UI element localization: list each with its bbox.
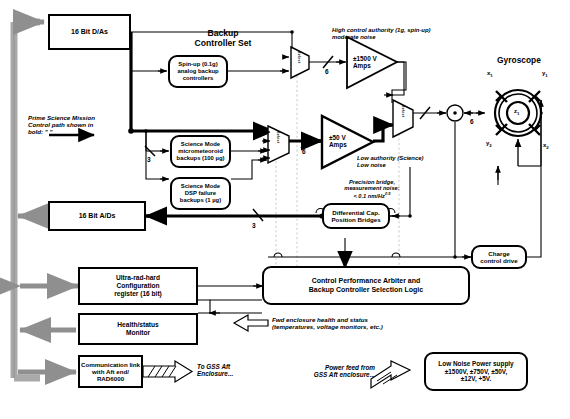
label-lv-amps: ±50 V Amps: [329, 134, 347, 149]
gyro-electrode-y2-label: y2: [486, 140, 492, 148]
gyro-electrode-y1-label: y1: [542, 70, 548, 78]
annotation-power-feed: Power feed from GSS Aft enclosure...: [293, 364, 375, 379]
bus-count-gyro: 6: [470, 118, 474, 125]
mux-mid-select-label: Select: [276, 131, 280, 143]
box-differential-cap-position-bridges[interactable]: Differential Cap. Position Bridges: [322, 203, 390, 229]
box-dsp-failure-backups[interactable]: Science Mode DSP failure backups (1 µg): [170, 177, 231, 210]
hollow-arrow-fwd-enclosure: [234, 315, 268, 331]
gyro-rotor-z1-label: z1: [514, 108, 519, 116]
bus-count-spinup-in: 3: [147, 156, 151, 163]
gyro-electrode-x2-label: x2: [543, 142, 549, 150]
bus-count-hv-out: 6: [325, 68, 329, 75]
gray-arrows: [16, 22, 78, 372]
annotation-to-gss-aft-enclosure: To GSS Aft Enclosure...: [197, 363, 267, 378]
box-communication-link[interactable]: Communication link with Aft end/ RAD6000: [78, 355, 143, 388]
gyroscope-title: Gyroscope: [484, 55, 554, 65]
annotation-fwd-enclosure-status: Fwd enclosure health and status (tempera…: [272, 316, 462, 330]
mux-top-select-label: Select: [297, 51, 301, 63]
gyro-z1-sub: 1: [517, 111, 519, 116]
box-health-status-monitor[interactable]: Health/status Monitor: [78, 313, 198, 345]
annotation-prime-science-path: Prime Science Mission Control path shown…: [28, 114, 148, 135]
box-config-register[interactable]: Ultra-rad-hard Configuration register (1…: [78, 267, 198, 305]
bus-count-lv-out: 6: [302, 148, 306, 155]
box-low-noise-power-supply[interactable]: Low Noise Power supply ±1500V, ±750V, ±5…: [424, 352, 528, 391]
precision-bridge-exponent: 0.5: [385, 191, 391, 196]
gray-backbone-bus: [14, 22, 40, 378]
box-micrometeoroid-backups[interactable]: Science Mode micrometeoroid backups (100…: [170, 135, 231, 168]
gyro-y2-sub: 2: [489, 143, 491, 148]
backup-controller-set-title: Backup Controller Set: [168, 28, 278, 49]
bus-count-adc-in: 3: [252, 222, 256, 229]
gyroscope-shape: [495, 90, 541, 166]
label-hv-amps: ±1500 V Amps: [353, 55, 377, 70]
summing-node: [447, 105, 463, 121]
precision-bridge-text: Precision bridge, measurement noise: < 0…: [344, 179, 399, 199]
block-diagram-canvas: 16 Bit D/As 16 Bit A/Ds Ultra-rad-hard C…: [0, 0, 570, 419]
annotation-precision-bridge: Precision bridge, measurement noise: < 0…: [322, 172, 422, 199]
hollow-arrow-to-gss: [143, 361, 192, 382]
gyro-x2-sub: 2: [546, 145, 548, 150]
box-16bit-dac[interactable]: 16 Bit D/As: [48, 14, 131, 50]
annotation-high-control-authority: High control authority (1g, spin-up) mod…: [332, 27, 482, 41]
hollow-arrow-power-feed: [371, 361, 410, 388]
box-control-performance-arbiter[interactable]: Control Performance Arbiter and Backup C…: [262, 266, 470, 305]
gyro-y1-sub: 1: [545, 73, 547, 78]
box-16bit-adc[interactable]: 16 Bit A/Ds: [48, 201, 146, 231]
gyro-electrode-x1-label: x1: [487, 70, 493, 78]
box-charge-control-drive[interactable]: Charge control drive: [471, 245, 527, 269]
mux-output-select-label: Select: [401, 105, 405, 117]
box-spinup-backup-controllers[interactable]: Spin-up (0.1g) analog backup controllers: [168, 55, 228, 88]
gyro-x1-sub: 1: [490, 73, 492, 78]
annotation-low-authority: Low authority (Science) Low noise: [357, 155, 477, 169]
